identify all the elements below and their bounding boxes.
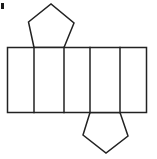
lateral-faces-band <box>8 48 147 113</box>
net-diagram-svg <box>0 0 157 159</box>
net-diagram-figure <box>0 0 157 159</box>
bottom-pentagon-face <box>83 113 128 154</box>
top-pentagon-face <box>29 4 75 48</box>
corner-mark-icon <box>1 3 4 9</box>
